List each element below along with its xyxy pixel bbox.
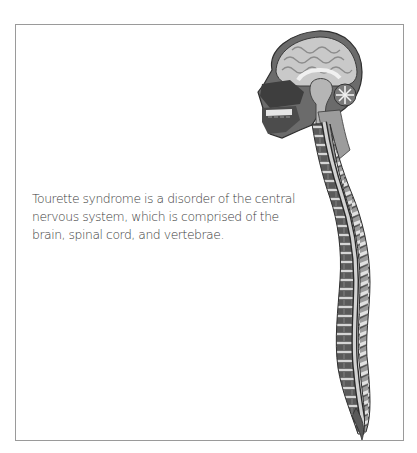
sagittal-head-and-spine-icon <box>0 0 417 453</box>
